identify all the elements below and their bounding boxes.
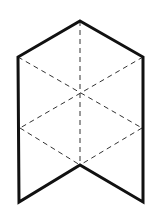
dashed-line-left-mid-to-notch bbox=[20, 128, 80, 165]
dashed-line-right-mid-to-notch bbox=[80, 128, 142, 165]
chevron-fold-diagram bbox=[0, 0, 155, 221]
dashed-line-top-right-to-left-mid bbox=[20, 57, 143, 128]
diagram-canvas bbox=[0, 0, 155, 221]
dashed-fold-lines bbox=[18, 21, 143, 165]
